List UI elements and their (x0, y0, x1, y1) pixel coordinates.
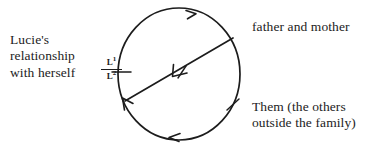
label-lucie-relationship: Lucie's relationship with herself (10, 32, 75, 81)
fraction-denominator-exponent: 2 (113, 69, 117, 77)
diagonal-chord (125, 38, 233, 101)
label-father-and-mother: father and mother (252, 19, 350, 35)
fraction-numerator-exponent: 1 (113, 55, 117, 63)
diagram-canvas: L1 L2 Lucie's relationship with herself … (0, 0, 384, 153)
tick-right-icon (227, 99, 239, 110)
fraction-denominator: L2 (101, 71, 122, 82)
clockwise-arrow-top-icon (186, 11, 196, 19)
main-circle (118, 8, 240, 140)
fraction-label: L1 L2 (101, 57, 122, 82)
fraction-bar (101, 69, 122, 70)
label-them-others: Them (the others outside the family) (252, 99, 356, 132)
fraction-numerator: L1 (101, 57, 122, 68)
